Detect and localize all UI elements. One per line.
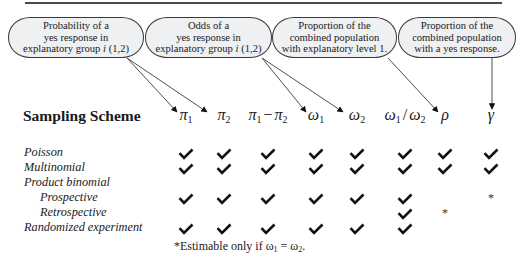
check-cell	[348, 192, 366, 205]
check-cell	[436, 147, 454, 160]
check-icon	[216, 163, 232, 175]
callout-line: with explanatory level 1.	[282, 43, 387, 55]
check-icon	[216, 223, 232, 235]
column-header: γ	[488, 106, 494, 124]
callout-line: with a yes response.	[414, 43, 499, 55]
check-icon	[260, 193, 276, 205]
check-cell	[307, 147, 325, 160]
check-icon	[308, 193, 324, 205]
callout-odds: Odds of ayes response inexplanatory grou…	[145, 17, 272, 58]
callout-line: Probability of a	[43, 20, 109, 32]
top-rule	[25, 2, 502, 4]
callout-rho: Proportion of thecombined populationwith…	[272, 17, 397, 58]
footnote-text: *Estimable only if ω	[174, 239, 274, 253]
check-icon	[483, 163, 499, 175]
callout-line: Odds of a	[188, 20, 229, 32]
check-cell	[348, 222, 366, 235]
check-cell	[396, 222, 414, 235]
check-cell	[215, 192, 233, 205]
callout-line: explanatory group i (1,2)	[23, 43, 129, 55]
row-label: Randomized experiment	[24, 220, 143, 235]
check-icon	[349, 223, 365, 235]
callout-prob: Probability of ayes response inexplanato…	[8, 17, 144, 58]
callout-line: yes response in	[44, 32, 109, 44]
index-variable: i	[103, 43, 106, 54]
arrow	[262, 58, 306, 112]
check-cell	[177, 162, 195, 175]
check-icon	[216, 148, 232, 160]
callout-line: combined population	[412, 32, 502, 44]
check-icon	[483, 148, 499, 160]
check-cell	[307, 222, 325, 235]
column-header: ω1/ω2	[384, 106, 425, 125]
footnote: *Estimable only if ω1 = ω2.	[174, 239, 305, 254]
check-icon	[178, 148, 194, 160]
check-cell	[215, 147, 233, 160]
callout-gamma: Proportion of thecombined populationwith…	[398, 17, 516, 58]
row-label: Prospective	[40, 190, 98, 205]
check-icon	[397, 163, 413, 175]
check-cell	[177, 147, 195, 160]
check-icon	[308, 148, 324, 160]
check-icon	[308, 163, 324, 175]
row-label: Retrospective	[40, 205, 106, 220]
check-cell	[307, 162, 325, 175]
check-cell	[177, 192, 195, 205]
column-header: ω1	[308, 106, 324, 125]
check-cell	[177, 222, 195, 235]
row-label: Poisson	[24, 145, 63, 160]
check-cell	[215, 162, 233, 175]
check-icon	[397, 193, 413, 205]
asterisk-cell: *	[436, 207, 454, 220]
table-heading: Sampling Scheme	[23, 107, 141, 125]
column-header: π2	[217, 106, 230, 125]
callout-line: combined population	[290, 32, 380, 44]
check-icon	[260, 223, 276, 235]
footnote-mid: = ω	[278, 239, 299, 253]
check-icon	[308, 223, 324, 235]
arrow	[127, 58, 207, 112]
callout-line: Proportion of the	[298, 20, 370, 32]
callout-line: explanatory group i (1,2)	[156, 43, 262, 55]
asterisk-icon: *	[442, 206, 448, 221]
row-label: Multinomial	[24, 160, 85, 175]
footnote-end: .	[302, 239, 305, 253]
check-icon	[349, 193, 365, 205]
check-cell	[259, 147, 277, 160]
check-cell	[396, 147, 414, 160]
asterisk-cell: *	[482, 192, 500, 205]
check-cell	[215, 222, 233, 235]
check-icon	[437, 148, 453, 160]
arrow	[262, 58, 343, 112]
column-header: ω2	[349, 106, 365, 125]
arrow	[388, 58, 438, 112]
check-icon	[178, 193, 194, 205]
check-cell	[348, 147, 366, 160]
column-header: π1−π2	[248, 106, 287, 125]
check-cell	[482, 162, 500, 175]
check-icon	[178, 223, 194, 235]
check-cell	[307, 192, 325, 205]
check-icon	[178, 163, 194, 175]
check-cell	[259, 222, 277, 235]
check-icon	[397, 223, 413, 235]
check-cell	[259, 192, 277, 205]
check-icon	[349, 163, 365, 175]
check-icon	[260, 163, 276, 175]
check-cell	[348, 162, 366, 175]
callout-line: Proportion of the	[421, 20, 493, 32]
check-icon	[216, 193, 232, 205]
arrow	[127, 58, 177, 112]
check-cell	[436, 162, 454, 175]
callout-line: yes response in	[176, 32, 241, 44]
check-icon	[349, 148, 365, 160]
asterisk-icon: *	[488, 191, 494, 206]
check-cell	[396, 207, 414, 220]
check-icon	[437, 163, 453, 175]
check-cell	[396, 192, 414, 205]
index-variable: i	[236, 43, 239, 54]
column-header: π1	[179, 106, 192, 125]
check-cell	[482, 147, 500, 160]
check-icon	[397, 208, 413, 220]
check-icon	[260, 148, 276, 160]
